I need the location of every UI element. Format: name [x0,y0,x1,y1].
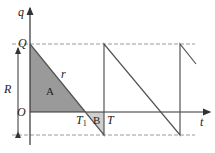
diagram-canvas: q t O Q R r A B T1 T [0,0,215,153]
slope-label: r [61,67,66,81]
t1-label: T1 [76,113,87,128]
origin-label: O [17,105,26,119]
t-label: T [107,113,115,127]
top-level-label: Q [18,36,27,50]
x-axis-label: t [200,115,204,129]
inventory-sawtooth-diagram: q t O Q R r A B T1 T [0,0,215,153]
y-axis-label: q [18,5,24,19]
range-label: R [3,82,12,96]
region-b-label: B [93,114,100,126]
region-a-label: A [46,85,54,97]
